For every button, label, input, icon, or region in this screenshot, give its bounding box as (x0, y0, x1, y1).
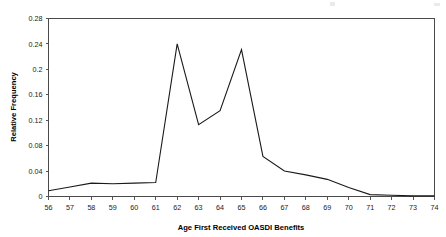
line-chart-canvas: 00.040.080.120.160.20.240.28 56575859606… (0, 0, 446, 237)
y-tick-label: 0.28 (29, 14, 43, 23)
y-tick-label: 0.08 (29, 141, 43, 150)
x-tick-label: 74 (431, 203, 439, 212)
y-tick-label: 0.16 (29, 90, 43, 99)
x-tick-label: 62 (173, 203, 181, 212)
y-tick-label: 0.2 (33, 65, 43, 74)
y-axis-title: Relative Frequency (9, 71, 18, 141)
x-tick-label: 68 (302, 203, 310, 212)
scan-speck-right-icon (434, 3, 440, 6)
x-tick-label: 69 (323, 203, 331, 212)
y-tick-label: 0 (39, 192, 43, 201)
x-axis-title: Age First Received OASDI Benefits (178, 223, 305, 232)
x-tick-label: 58 (87, 203, 95, 212)
x-tick-label: 72 (388, 203, 396, 212)
y-axis-tick-labels: 00.040.080.120.160.20.240.28 (29, 14, 43, 201)
x-tick-label: 64 (216, 203, 224, 212)
x-tick-label: 73 (409, 203, 417, 212)
x-axis-tick-labels: 56575859606162636465666768697071727374 (45, 203, 439, 212)
plot-border (49, 19, 435, 197)
x-tick-label: 63 (195, 203, 203, 212)
data-series-group (49, 44, 435, 196)
y-tick-label: 0.24 (29, 40, 43, 49)
x-tick-label: 60 (130, 203, 138, 212)
x-tick-label: 56 (45, 203, 53, 212)
x-tick-label: 57 (66, 203, 74, 212)
scan-speck-left-icon (330, 2, 335, 6)
x-tick-label: 66 (259, 203, 267, 212)
x-tick-label: 70 (345, 203, 353, 212)
x-tick-label: 65 (238, 203, 246, 212)
data-line-relative-frequency (49, 44, 435, 196)
x-tick-label: 61 (152, 203, 160, 212)
y-tick-label: 0.12 (29, 116, 43, 125)
plot-frame (49, 19, 435, 197)
x-tick-label: 71 (366, 203, 374, 212)
y-tick-label: 0.04 (29, 167, 43, 176)
chart-figure: 00.040.080.120.160.20.240.28 56575859606… (0, 0, 446, 237)
x-tick-label: 59 (109, 203, 117, 212)
x-tick-label: 67 (280, 203, 288, 212)
